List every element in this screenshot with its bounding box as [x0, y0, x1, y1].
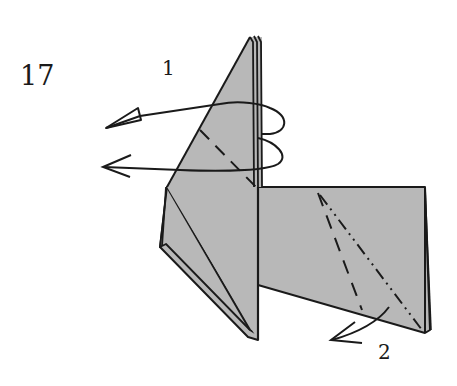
action-label-2: 2 — [378, 342, 391, 362]
origami-diagram-step: 17 1 2 — [0, 0, 457, 386]
action-label-1: 1 — [162, 58, 175, 78]
step-number: 17 — [20, 62, 54, 89]
right-panel — [258, 187, 431, 333]
origami-figure — [0, 0, 457, 386]
